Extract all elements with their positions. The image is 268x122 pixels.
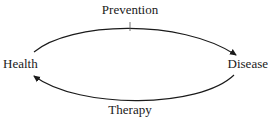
disease-node-label: Disease (228, 57, 268, 71)
health-node-label: Health (3, 57, 38, 71)
therapy-label: Therapy (0, 103, 260, 117)
prevention-arrow (34, 28, 236, 55)
prevention-label: Prevention (0, 3, 260, 17)
therapy-arrow (34, 75, 234, 101)
cycle-diagram: Prevention Health Disease Therapy (0, 0, 268, 122)
